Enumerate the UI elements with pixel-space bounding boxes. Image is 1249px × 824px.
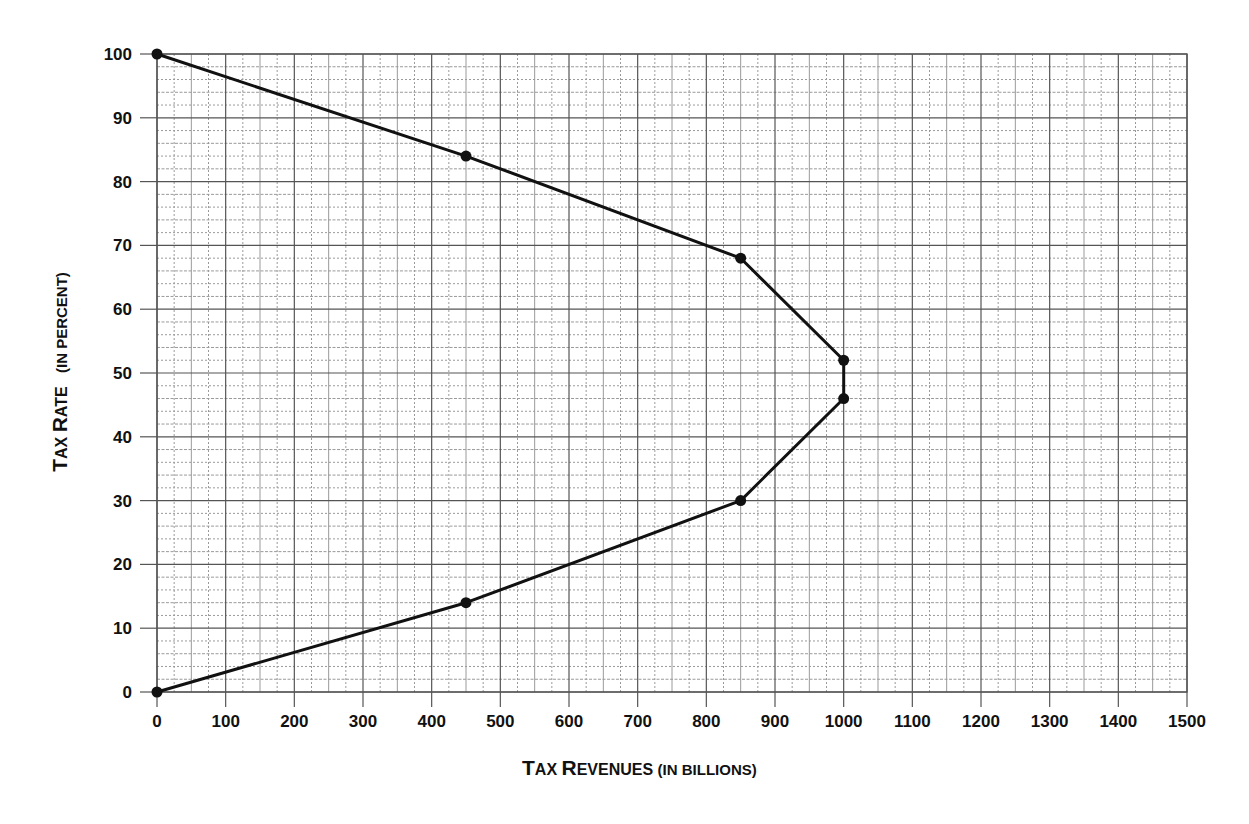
x-tick-label: 800 xyxy=(692,712,720,731)
x-tick-label: 200 xyxy=(280,712,308,731)
x-tick-label: 100 xyxy=(211,712,239,731)
y-tick-label: 80 xyxy=(113,173,132,192)
y-tick-label: 100 xyxy=(104,45,132,64)
y-tick-label: 70 xyxy=(113,236,132,255)
y-tick-label: 0 xyxy=(123,683,132,702)
x-tick-label: 400 xyxy=(417,712,445,731)
x-tick-label: 600 xyxy=(555,712,583,731)
y-title-cap2: R xyxy=(48,417,71,432)
x-axis-title: TAX REVENUES (IN BILLIONS) xyxy=(522,756,757,780)
x-tick-label: 1300 xyxy=(1031,712,1069,731)
x-tick-label: 1400 xyxy=(1099,712,1137,731)
data-point-marker xyxy=(735,495,746,506)
y-tick-label: 10 xyxy=(113,619,132,638)
x-tick-label: 0 xyxy=(152,712,161,731)
y-axis-title: TAX RATE (IN PERCENT) xyxy=(48,272,72,472)
y-tick-label: 50 xyxy=(113,364,132,383)
x-tick-label: 900 xyxy=(761,712,789,731)
y-axis-tick-labels: 0102030405060708090100 xyxy=(104,45,132,702)
y-tick-label: 40 xyxy=(113,428,132,447)
data-point-marker xyxy=(838,393,849,404)
y-tick-label: 30 xyxy=(113,492,132,511)
data-point-marker xyxy=(735,253,746,264)
x-tick-label: 1000 xyxy=(825,712,863,731)
x-title-cap2: R xyxy=(562,756,577,779)
x-tick-label: 1500 xyxy=(1168,712,1206,731)
y-title-cap1: T xyxy=(48,459,71,472)
y-title-rest2: ATE xyxy=(53,382,70,417)
x-tick-label: 300 xyxy=(349,712,377,731)
x-title-cap1: T xyxy=(522,756,535,779)
data-point-marker xyxy=(461,597,472,608)
x-tick-label: 1100 xyxy=(894,712,931,731)
x-title-rest1: AX xyxy=(535,761,562,778)
x-axis-tick-labels: 0100200300400500600700800900100011001200… xyxy=(152,712,1206,731)
y-tick-label: 60 xyxy=(113,300,132,319)
data-point-marker xyxy=(461,151,472,162)
x-tick-label: 1200 xyxy=(962,712,1000,731)
laffer-curve-chart: 0100200300400500600700800900100011001200… xyxy=(0,0,1249,824)
y-tick-label: 90 xyxy=(113,109,132,128)
data-point-marker xyxy=(152,687,163,698)
x-title-rest2: EVENUES xyxy=(577,761,658,778)
x-title-unit: (IN BILLIONS) xyxy=(658,761,757,778)
y-tick-label: 20 xyxy=(113,555,132,574)
x-tick-label: 500 xyxy=(486,712,514,731)
axis-ticks xyxy=(140,54,1187,707)
y-title-unit: (IN PERCENT) xyxy=(53,272,70,373)
y-title-rest1: AX xyxy=(53,432,70,459)
data-point-marker xyxy=(838,355,849,366)
data-point-marker xyxy=(152,49,163,60)
x-tick-label: 700 xyxy=(623,712,651,731)
